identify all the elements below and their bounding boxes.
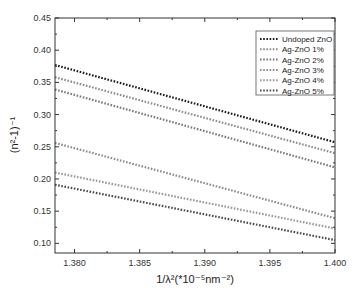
y-tick-label: 0.20 <box>33 174 51 184</box>
y-tick-label: 0.25 <box>33 142 51 152</box>
y-tick-label: 0.45 <box>33 13 51 23</box>
legend-label: Undoped ZnO <box>282 35 332 44</box>
y-tick-label: 0.35 <box>33 77 51 87</box>
legend-label: Ag-ZnO 3% <box>282 66 324 75</box>
x-tick-label: 1.390 <box>194 258 217 268</box>
x-tick-label: 1.400 <box>324 258 347 268</box>
x-tick-label: 1.385 <box>128 258 151 268</box>
legend-label: Ag-ZnO 2% <box>282 56 324 65</box>
line-chart: 0.100.150.200.250.300.350.400.45 1.3801.… <box>0 0 355 297</box>
series-line <box>55 185 335 240</box>
legend-label: Ag-ZnO 5% <box>282 87 324 96</box>
y-tick-label: 0.40 <box>33 45 51 55</box>
legend-label: Ag-ZnO 4% <box>282 76 324 85</box>
series-line <box>55 89 335 167</box>
y-tick-label: 0.30 <box>33 110 51 120</box>
y-axis-title: (n²-1)⁻¹ <box>8 116 20 153</box>
y-tick-label: 0.15 <box>33 206 51 216</box>
x-tick-label: 1.395 <box>259 258 282 268</box>
legend: Undoped ZnOAg-ZnO 1%Ag-ZnO 2%Ag-ZnO 3%Ag… <box>256 31 334 96</box>
x-tick-label: 1.380 <box>63 258 86 268</box>
legend-label: Ag-ZnO 1% <box>282 45 324 54</box>
x-axis-title: 1/λ²(*10⁻⁵nm⁻²) <box>156 273 234 285</box>
y-tick-label: 0.10 <box>33 238 51 248</box>
